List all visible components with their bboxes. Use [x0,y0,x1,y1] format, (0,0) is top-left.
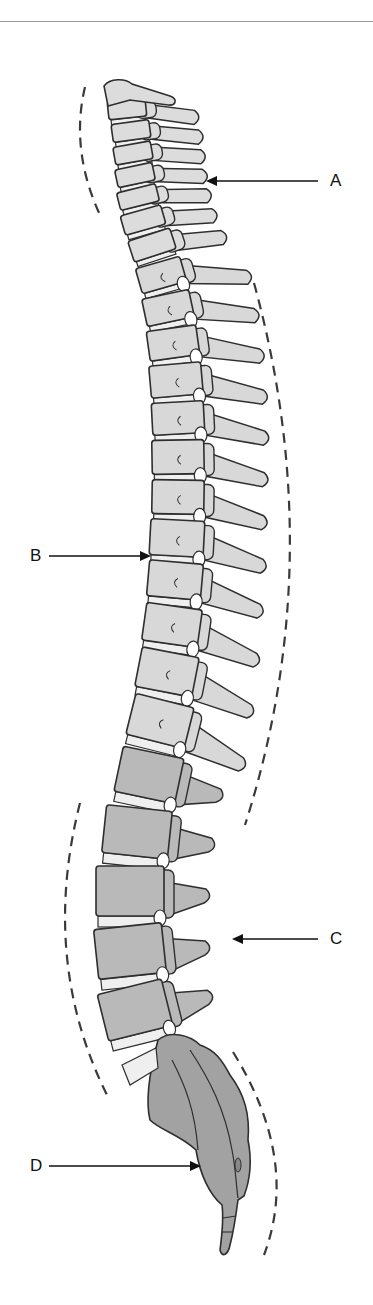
label-a: A [330,172,341,189]
vertebra-lumbar [101,805,218,875]
label-d: D [30,1157,42,1174]
arrowhead-icon [232,934,243,944]
sacrum-shape [148,1035,250,1255]
sacrum-coccyx [122,1035,250,1255]
cervical-curve-guide [80,87,100,215]
vertebra-lumbar [96,866,210,927]
atlas-vertebra [104,80,175,106]
vertebral-body [102,805,173,860]
spine-diagram [0,0,373,1305]
sacral-foramen [235,1158,241,1172]
vertebral-body [94,923,167,980]
vertebra-lumbar [94,918,213,991]
vertebral-body [96,866,164,916]
label-b: B [30,547,41,564]
label-c: C [330,930,342,947]
vertebral-column [94,80,270,1052]
